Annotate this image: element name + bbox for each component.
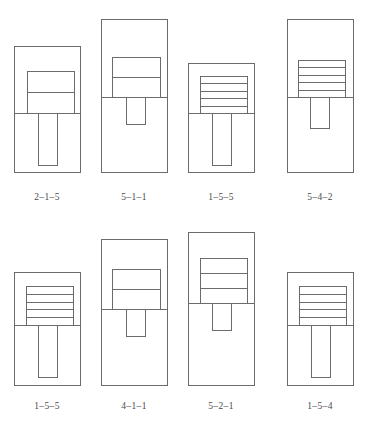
figure-group [102, 20, 168, 173]
striped-block-rect [201, 77, 248, 114]
tongue-rect [127, 98, 146, 125]
figure-caption: 4–1–1 [121, 401, 147, 411]
figure-plate-canvas [0, 0, 369, 424]
striped-block-rect [300, 287, 347, 326]
figure-plate: 2–1–55–1–11–5–55–4–21–5–54–1–15–2–11–5–4 [0, 0, 369, 424]
tongue-rect [39, 326, 58, 378]
tongue-rect [39, 114, 58, 166]
figure-group [102, 240, 168, 386]
tongue-rect [213, 114, 232, 166]
figure-caption: 1–5–5 [208, 192, 234, 202]
tongue-rect [312, 326, 331, 378]
tongue-rect [213, 304, 232, 331]
figure-group [15, 273, 81, 386]
figure-caption: 5–2–1 [208, 401, 234, 411]
tongue-rect [127, 310, 146, 337]
figure-group [15, 47, 81, 173]
striped-block-rect [201, 259, 248, 304]
figure-caption: 1–5–5 [34, 401, 60, 411]
tongue-rect [311, 98, 330, 129]
figure-group [189, 233, 255, 386]
striped-block-rect [27, 287, 74, 326]
figure-group [189, 64, 255, 173]
figure-group [288, 273, 354, 386]
figure-caption: 1–5–4 [307, 401, 333, 411]
figure-caption: 2–1–5 [34, 192, 60, 202]
figure-caption: 5–4–2 [307, 192, 333, 202]
striped-block-rect [299, 61, 346, 98]
figure-caption: 5–1–1 [121, 192, 147, 202]
figure-group [288, 20, 354, 173]
